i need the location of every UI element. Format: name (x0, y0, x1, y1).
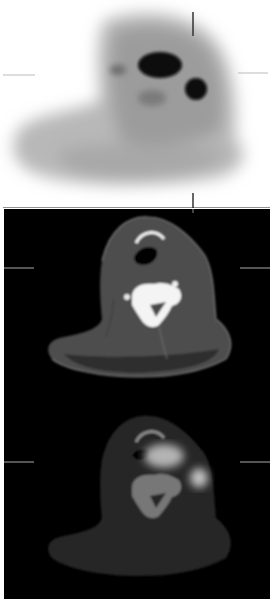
ct-image (4, 209, 270, 398)
pet-panel: PET/CT axial neck (0, 0, 278, 208)
ct-panel (4, 209, 270, 398)
fused-panel (4, 398, 270, 599)
pet-image (0, 0, 278, 208)
fused-image (4, 398, 270, 599)
